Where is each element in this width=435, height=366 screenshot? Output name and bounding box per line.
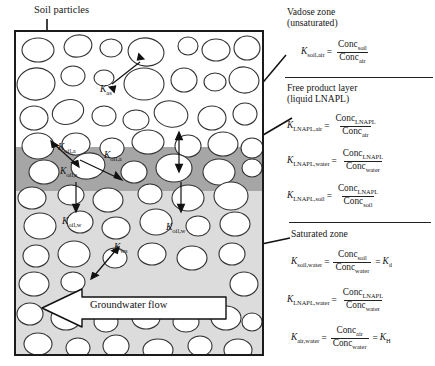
equation-k-lnapl-soil: KLNAPL,soil = ConcLNAPL Concsoil [287, 184, 382, 208]
vadose-heading-line2: (unsaturated) [287, 17, 338, 28]
equations-panel: Vadose zone (unsaturated) Ksoil,air = Co… [283, 0, 435, 366]
label-k-oil-a-1: Koil,a [58, 142, 76, 154]
equation-k-soil-air: Ksoil,air = Concsoil Concair [301, 40, 371, 64]
equation-k-lnapl-water: KLNAPL,water = ConcLNAPL Concwater [287, 149, 387, 173]
kh-identity: KH [380, 332, 391, 344]
groundwater-flow-label: Groundwater flow [90, 299, 167, 310]
figure-root: Soil particles [0, 0, 435, 366]
equation-k-soil-water: Ksoil,water = Concsoil Concwater = Kd [291, 250, 392, 274]
label-k-oil-w-1: Koil,w [62, 216, 82, 228]
equation-k-lnapl-air: KLNAPL,air = ConcLNAPL Concair [287, 114, 380, 138]
divider-napl-saturated [289, 222, 431, 223]
label-k-oil-w-2: Koil,w [166, 222, 186, 234]
section-saturated: Saturated zone [291, 228, 348, 239]
saturated-heading-line1: Saturated zone [291, 228, 348, 239]
equation-k-lnapl-water-saturated: KLNAPL,water = ConcLNAPL Concwater [287, 288, 387, 312]
equation-k-air-water: Kair,water = Concair Concwater = KH [291, 326, 391, 350]
section-napl: Free product layer (liquid LNAPL) [287, 82, 357, 105]
divider-vadose-napl [285, 77, 433, 78]
napl-heading-line2: (liquid LNAPL) [287, 93, 357, 104]
section-vadose: Vadose zone (unsaturated) [287, 6, 338, 29]
soil-particles-label: Soil particles [34, 4, 89, 15]
vadose-heading-line1: Vadose zone [287, 6, 338, 17]
napl-heading-line1: Free product layer [287, 82, 357, 93]
soil-profile-diagram: Kas Koil,a Koil,a Koil,s Koil,w Koil,w K… [14, 30, 264, 356]
label-k-oil-a-2: Koil,a [104, 150, 122, 162]
label-k-oil-s: Koil,s [60, 166, 77, 178]
label-k-as: Kas [100, 84, 112, 96]
label-k-ws: Kws [114, 242, 128, 254]
kd-identity: Kd [383, 256, 392, 268]
